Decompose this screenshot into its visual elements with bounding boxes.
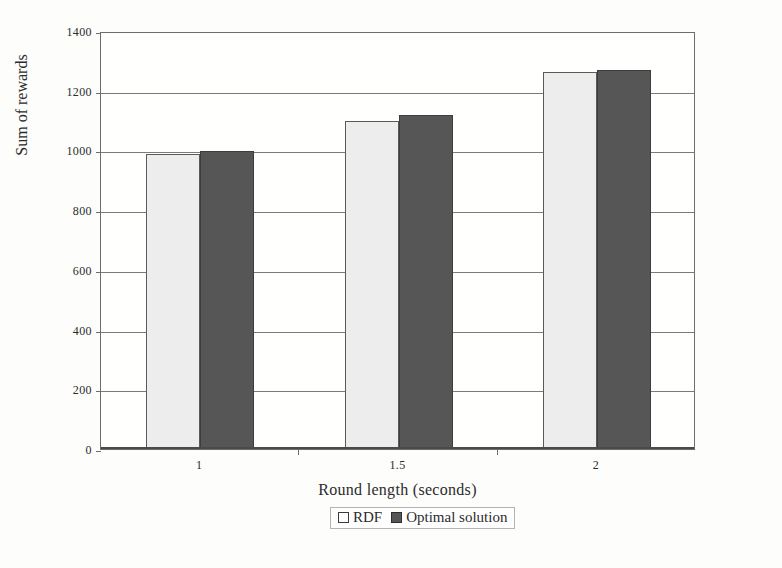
legend-item: RDF (338, 510, 382, 525)
y-axis-tickmark (96, 451, 101, 452)
y-axis-tick-labels: 0200400600800100012001400 (40, 0, 92, 568)
bar-group (345, 33, 453, 449)
light-square-swatch (338, 512, 349, 523)
y-axis-tick-label: 800 (48, 205, 92, 217)
legend-item-label: RDF (353, 510, 382, 525)
bar-rdf (345, 121, 399, 449)
bar-optimal-solution (399, 115, 453, 449)
dark-square-swatch (391, 512, 402, 523)
bar-group (146, 33, 254, 449)
x-axis-tickmark (298, 450, 299, 455)
y-axis-tick-label: 1000 (48, 145, 92, 157)
y-axis-tick-label: 1400 (48, 26, 92, 38)
y-axis-title: Sum of rewards (13, 15, 35, 195)
x-axis-tick-label: 2 (556, 458, 636, 473)
x-axis-tick-label: 1 (159, 458, 239, 473)
y-axis-tick-label: 0 (48, 444, 92, 456)
chart-figure: 0200400600800100012001400 Sum of rewards… (0, 0, 782, 568)
bar-rdf (543, 72, 597, 449)
bar-optimal-solution (597, 70, 651, 449)
x-axis-baseline (101, 447, 694, 449)
x-axis-tick-labels: 11.52 (100, 458, 695, 478)
bar-optimal-solution (200, 151, 254, 449)
plot-area (100, 32, 695, 450)
y-axis-tick-label: 400 (48, 325, 92, 337)
y-axis-tick-label: 200 (48, 384, 92, 396)
x-axis-tick-label: 1.5 (358, 458, 438, 473)
bar-series-layer (101, 33, 694, 449)
bar-group (543, 33, 651, 449)
legend-item: Optimal solution (391, 510, 507, 525)
chart-legend: RDFOptimal solution (330, 507, 515, 529)
bar-rdf (146, 154, 200, 449)
legend-item-label: Optimal solution (406, 510, 507, 525)
y-axis-tick-label: 1200 (48, 86, 92, 98)
y-axis-tick-label: 600 (48, 265, 92, 277)
x-axis-tickmark (497, 450, 498, 455)
x-axis-title: Round length (seconds) (100, 481, 695, 499)
